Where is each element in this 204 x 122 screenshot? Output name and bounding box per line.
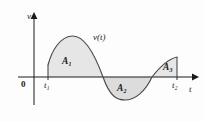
figure-container: v t 0 v(t) t1 t2 A1 A2 A3 [0,0,204,122]
t2-tick-label: t2 [172,81,177,90]
t2-tick-label-sub: 2 [175,85,178,91]
curve-label: v(t) [93,33,106,42]
origin-label: 0 [21,80,26,89]
region-a2-label-sub: 2 [123,88,126,94]
region-a2-label: A2 [117,84,126,94]
t1-tick-label-sub: 1 [47,85,50,91]
region-a1-label: A1 [62,57,71,67]
region-a3-label-sub: 3 [169,67,172,73]
t-axis-arrowhead [192,74,199,81]
v-axis-arrowhead [31,12,38,19]
region-a1-label-sub: 1 [68,61,71,67]
t-axis-label: t [189,85,192,94]
region-a3-label: A3 [163,63,172,73]
t1-tick-label: t1 [44,81,49,90]
v-axis-label: v [27,12,31,21]
